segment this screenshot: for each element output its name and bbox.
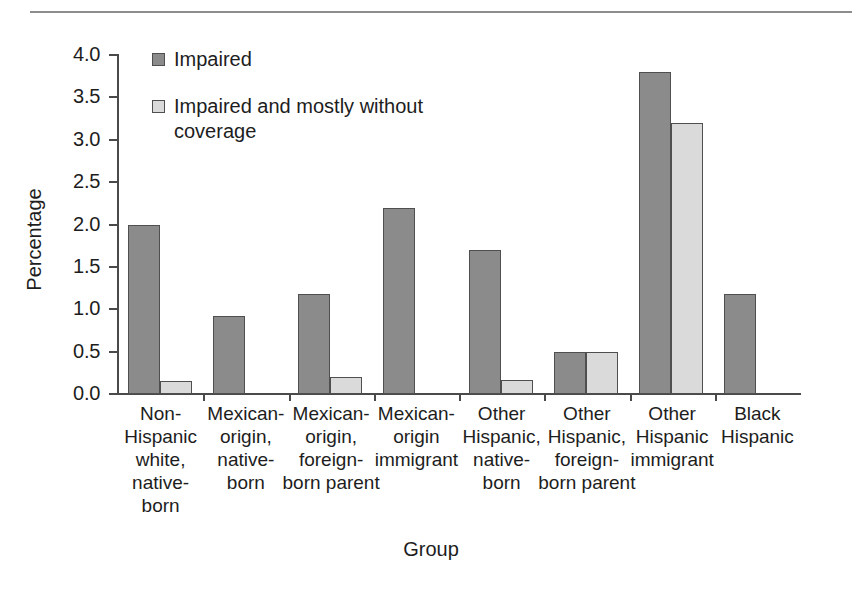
y-axis-tick-labels: 4.03.53.02.52.01.51.00.50.0: [38, 0, 100, 597]
y-axis-tick-label: 3.0: [54, 129, 100, 149]
legend-swatch-impaired-icon: [152, 53, 165, 66]
y-axis-tick-label: 1.5: [54, 256, 100, 276]
bar-impaired: [383, 208, 415, 394]
y-axis-tick-label: 2.5: [54, 171, 100, 191]
bar-impaired: [469, 250, 501, 394]
x-axis-tick: [203, 393, 205, 401]
x-axis-category-label: BlackHispanic: [703, 402, 812, 448]
y-axis-tick: [109, 224, 118, 226]
legend-swatch-without-coverage-icon: [152, 100, 165, 113]
page-top-rule: [30, 11, 852, 13]
y-axis-tick-label: 2.0: [54, 214, 100, 234]
bar-impaired: [554, 352, 586, 394]
bar-impaired: [213, 316, 245, 394]
y-axis-tick: [109, 139, 118, 141]
x-axis-tick: [715, 393, 717, 401]
y-axis-tick: [109, 54, 118, 56]
bar-impaired: [298, 294, 330, 394]
x-axis-label-line: Black: [703, 402, 812, 425]
y-axis-tick-label: 4.0: [54, 44, 100, 64]
y-axis-tick: [109, 181, 118, 183]
bar-impaired-without-coverage: [160, 381, 192, 394]
x-axis-label-line: born parent: [277, 471, 386, 494]
bar-impaired-without-coverage: [330, 377, 362, 394]
x-axis-tick: [289, 393, 291, 401]
x-axis-tick: [459, 393, 461, 401]
x-axis-tick: [630, 393, 632, 401]
x-axis-label-line: Hispanic: [703, 425, 812, 448]
bar-chart-figure: 4.03.53.02.52.01.51.00.50.0 Percentage G…: [0, 0, 862, 597]
bar-impaired-without-coverage: [501, 380, 533, 394]
y-axis-tick: [109, 308, 118, 310]
legend-item: Impaired and mostly without coverage: [152, 94, 482, 144]
x-axis-label-line: born: [106, 494, 215, 517]
y-axis-title: Percentage: [23, 130, 46, 350]
bar-impaired: [724, 294, 756, 394]
y-axis-tick-label: 1.0: [54, 298, 100, 318]
bar-impaired-without-coverage: [586, 352, 618, 394]
y-axis-tick: [109, 393, 118, 395]
y-axis-tick: [109, 96, 118, 98]
x-axis-tick: [374, 393, 376, 401]
y-axis-tick: [109, 351, 118, 353]
legend-label: Impaired: [174, 47, 252, 72]
chart-legend: ImpairedImpaired and mostly without cove…: [152, 47, 482, 166]
x-axis-title: Group: [0, 538, 862, 561]
legend-label: Impaired and mostly without coverage: [174, 94, 482, 144]
x-axis-label-line: born parent: [532, 471, 641, 494]
bar-impaired-without-coverage: [671, 123, 703, 394]
y-axis-tick: [109, 266, 118, 268]
x-axis-label-line: immigrant: [618, 448, 727, 471]
y-axis-tick-label: 0.5: [54, 341, 100, 361]
y-axis-tick-label: 0.0: [54, 383, 100, 403]
legend-item: Impaired: [152, 47, 482, 72]
y-axis-tick-label: 3.5: [54, 86, 100, 106]
x-axis-tick: [544, 393, 546, 401]
bar-impaired: [639, 72, 671, 394]
bar-impaired: [128, 225, 160, 395]
